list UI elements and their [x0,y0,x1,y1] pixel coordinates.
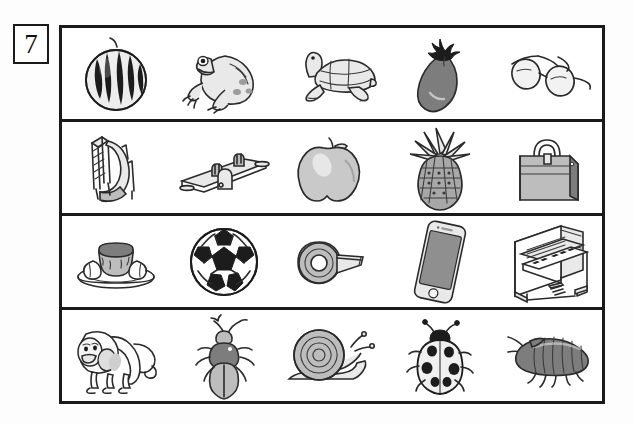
slide-icon [78,127,154,209]
cell-eyeglasses[interactable] [494,28,602,119]
cell-tape-roll[interactable] [278,216,386,307]
turtle-icon [287,43,377,105]
cell-eggplant[interactable] [386,28,494,119]
seesaw-icon [176,137,272,199]
cell-ladybug[interactable] [386,310,494,401]
cell-seesaw[interactable] [170,122,278,213]
pillbug-icon [502,325,594,387]
picture-row-2 [62,122,602,216]
ladybug-icon [407,318,473,394]
cell-frog[interactable] [170,28,278,119]
question-number: 7 [24,31,38,58]
handbag-icon [510,130,586,206]
cell-apple[interactable] [278,122,386,213]
cell-turtle[interactable] [278,28,386,119]
cell-soccer-ball[interactable] [170,216,278,307]
pineapple-icon [407,126,473,210]
eyeglasses-icon [502,44,594,104]
smartphone-icon [412,220,468,304]
picture-row-3 [62,216,602,310]
snail-icon [285,325,379,387]
soccer-ball-icon [187,225,261,299]
cell-pineapple[interactable] [386,122,494,213]
pudding-icon [71,231,161,293]
picture-row-1 [62,28,602,122]
cell-monkey[interactable] [62,310,170,401]
cell-beetle[interactable] [170,310,278,401]
monkey-icon [66,318,166,394]
eggplant-icon [414,35,466,113]
cell-piano[interactable] [494,216,602,307]
beetle-icon [184,315,264,397]
cell-slide[interactable] [62,122,170,213]
apple-icon [299,132,365,204]
cell-watermelon[interactable] [62,28,170,119]
piano-icon [501,220,595,304]
cell-smartphone[interactable] [386,216,494,307]
watermelon-icon [80,35,152,113]
picture-grid [59,25,605,404]
picture-row-4 [62,310,602,401]
frog-icon [181,38,267,110]
tape-roll-icon [293,233,371,291]
worksheet-page: 7 [0,0,633,424]
question-number-box: 7 [13,24,49,64]
cell-pudding[interactable] [62,216,170,307]
cell-pillbug[interactable] [494,310,602,401]
cell-snail[interactable] [278,310,386,401]
cell-handbag[interactable] [494,122,602,213]
